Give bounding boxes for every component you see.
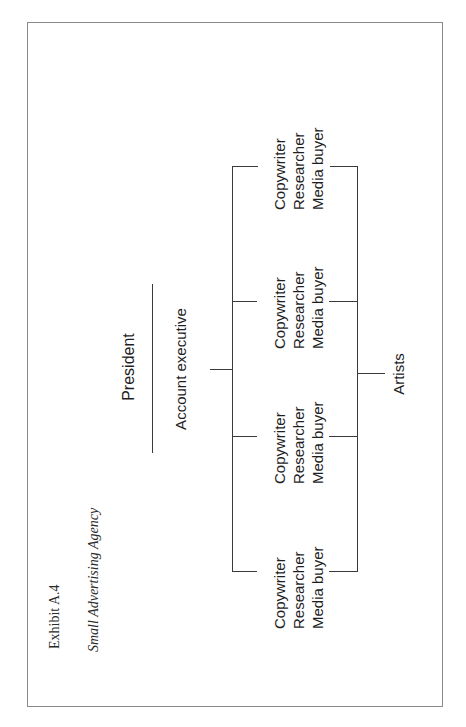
artists-label: Artists xyxy=(390,344,410,404)
connector-account-exec xyxy=(210,369,233,370)
team-1-researcher: Researcher xyxy=(289,529,308,629)
branch-right-team-3 xyxy=(329,301,358,302)
branch-left-team-4 xyxy=(232,166,258,167)
president-label: President xyxy=(120,327,140,407)
team-2-copywriter: Copywriter xyxy=(270,384,289,484)
connector-artists xyxy=(357,373,385,374)
team-4-media-buyer: Media buyer xyxy=(308,110,327,210)
team-2-researcher: Researcher xyxy=(289,384,308,484)
team-4-copywriter: Copywriter xyxy=(270,110,289,210)
team-4-roles: Copywriter Researcher Media buyer xyxy=(270,110,330,210)
team-1-media-buyer: Media buyer xyxy=(308,529,327,629)
left-spine-line xyxy=(232,166,233,572)
exhibit-subtitle: Small Advertising Agency xyxy=(86,482,104,652)
branch-right-team-2 xyxy=(329,436,358,437)
account-executive-label: Account executive xyxy=(172,299,192,439)
team-3-media-buyer: Media buyer xyxy=(308,249,327,349)
exhibit-page: Exhibit A.4 Small Advertising Agency Pre… xyxy=(0,0,466,727)
team-1-copywriter: Copywriter xyxy=(270,529,289,629)
president-separator-line xyxy=(152,284,153,453)
team-4-researcher: Researcher xyxy=(289,110,308,210)
exhibit-label: Exhibit A.4 xyxy=(47,569,65,649)
team-2-roles: Copywriter Researcher Media buyer xyxy=(270,384,330,484)
branch-left-team-1 xyxy=(232,571,257,572)
branch-right-team-1 xyxy=(329,571,358,572)
branch-left-team-3 xyxy=(232,301,257,302)
team-3-roles: Copywriter Researcher Media buyer xyxy=(270,249,330,349)
team-2-media-buyer: Media buyer xyxy=(308,384,327,484)
right-spine-line xyxy=(357,166,358,572)
branch-right-team-4 xyxy=(330,166,358,167)
team-3-researcher: Researcher xyxy=(289,249,308,349)
team-3-copywriter: Copywriter xyxy=(270,249,289,349)
team-1-roles: Copywriter Researcher Media buyer xyxy=(270,529,330,629)
branch-left-team-2 xyxy=(232,436,257,437)
